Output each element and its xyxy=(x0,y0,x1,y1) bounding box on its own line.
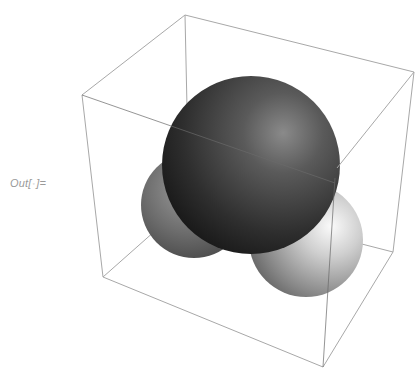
graphics3d-output[interactable] xyxy=(0,0,417,368)
center-sphere xyxy=(162,76,340,254)
